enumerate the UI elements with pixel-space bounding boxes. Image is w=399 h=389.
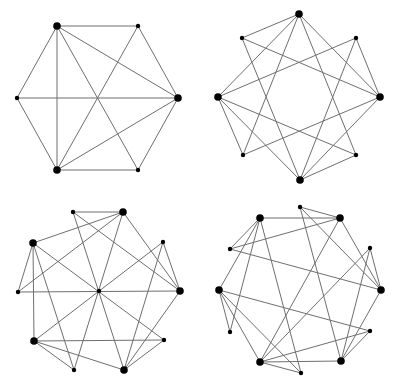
graph-node-large bbox=[336, 214, 344, 222]
graph-node-large bbox=[176, 287, 184, 295]
graph-node-small bbox=[368, 329, 372, 333]
graph-diagram-figure bbox=[0, 0, 399, 389]
graph-node-small bbox=[136, 168, 140, 172]
graph-node-small bbox=[240, 36, 244, 40]
edges bbox=[17, 26, 178, 170]
graph-node-small bbox=[298, 205, 302, 209]
graph-edge bbox=[230, 218, 340, 249]
graph-edge bbox=[17, 98, 57, 170]
graph-edge bbox=[124, 242, 163, 370]
graph-node-large bbox=[377, 286, 385, 294]
graph-edge bbox=[219, 290, 260, 362]
graph-edge bbox=[230, 218, 260, 332]
graph-edge bbox=[124, 340, 164, 370]
graph-node-large bbox=[53, 22, 61, 30]
graph-node-small bbox=[136, 24, 140, 28]
graph-edge bbox=[230, 249, 381, 290]
nodes bbox=[214, 10, 384, 184]
graph-edge bbox=[243, 14, 299, 155]
graph-node-large bbox=[53, 166, 61, 174]
graph-node-small bbox=[354, 36, 358, 40]
graph-edge bbox=[57, 98, 178, 170]
graph-bottom-right bbox=[215, 205, 385, 375]
graph-node-small bbox=[228, 247, 232, 251]
graph-node-small bbox=[16, 290, 20, 294]
graph-edge bbox=[17, 26, 57, 98]
graph-top-left bbox=[15, 22, 182, 174]
graph-node-small bbox=[241, 153, 245, 157]
graph-edge bbox=[18, 243, 33, 292]
graph-edge bbox=[260, 218, 301, 373]
graph-edge bbox=[138, 26, 178, 98]
graph-edge bbox=[138, 98, 178, 170]
graph-node-small bbox=[71, 210, 75, 214]
graph-node-large bbox=[296, 176, 304, 184]
graph-node-small bbox=[354, 153, 358, 157]
graph-node-small bbox=[97, 289, 101, 293]
graph-node-large bbox=[215, 286, 223, 294]
graph-node-large bbox=[29, 239, 37, 247]
graph-node-large bbox=[337, 357, 345, 365]
graph-node-large bbox=[119, 208, 127, 216]
graph-edge bbox=[218, 14, 299, 97]
graph-bottom-left bbox=[16, 208, 184, 374]
graph-node-small bbox=[228, 330, 232, 334]
graph-edge bbox=[218, 97, 356, 155]
graph-edge bbox=[163, 242, 180, 291]
graph-edge bbox=[260, 218, 340, 362]
graph-node-large bbox=[256, 214, 264, 222]
graph-edge bbox=[219, 290, 370, 331]
graph-top-right bbox=[214, 10, 384, 184]
graph-edge bbox=[341, 290, 381, 361]
graph-edge bbox=[218, 38, 356, 97]
graph-edge bbox=[300, 97, 380, 180]
graph-edge bbox=[218, 97, 300, 180]
graph-node-small bbox=[162, 338, 166, 342]
graph-node-large bbox=[214, 93, 222, 101]
graph-edge bbox=[260, 362, 301, 373]
graph-node-small bbox=[72, 368, 76, 372]
graph-edge bbox=[219, 218, 260, 290]
graph-edge bbox=[299, 14, 356, 155]
graph-node-large bbox=[174, 94, 182, 102]
graph-node-small bbox=[15, 96, 19, 100]
graph-edge bbox=[260, 331, 370, 362]
graph-node-large bbox=[376, 93, 384, 101]
graph-edge bbox=[124, 291, 180, 370]
graph-edge bbox=[34, 341, 124, 370]
graph-node-small bbox=[368, 246, 372, 250]
edges bbox=[219, 207, 381, 373]
graph-node-large bbox=[295, 10, 303, 18]
graph-edge bbox=[341, 248, 370, 361]
graph-edge bbox=[243, 97, 380, 155]
graph-edge bbox=[33, 243, 74, 370]
graph-edge bbox=[299, 14, 380, 97]
graph-node-large bbox=[30, 337, 38, 345]
graph-node-small bbox=[161, 240, 165, 244]
graph-edge bbox=[260, 361, 341, 362]
graph-edge bbox=[219, 290, 230, 332]
graph-node-small bbox=[299, 371, 303, 375]
graph-node-large bbox=[256, 358, 264, 366]
graph-edge bbox=[34, 341, 74, 370]
graph-node-large bbox=[120, 366, 128, 374]
